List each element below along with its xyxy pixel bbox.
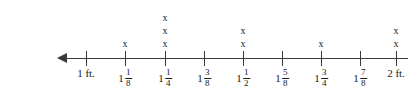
denominator: 2: [243, 79, 250, 88]
fraction-part: 78: [360, 68, 367, 89]
tick-mark: [396, 51, 397, 66]
fraction-part: 34: [321, 68, 328, 89]
x-mark: x: [241, 39, 246, 52]
tick-label-1-7-8: 178: [353, 68, 367, 89]
numerator: 1: [165, 68, 172, 77]
tick-label-1-3-4: 134: [314, 68, 328, 89]
fraction-part: 14: [165, 68, 172, 89]
mixed-number: 118: [118, 68, 132, 89]
x-stack-1-1-8: x: [123, 39, 128, 52]
fraction-part: 18: [125, 68, 132, 89]
tick-mark: [282, 51, 283, 66]
mixed-number: 112: [236, 68, 250, 89]
tick-mark: [125, 51, 126, 66]
tick-mark: [86, 51, 87, 66]
numerator: 5: [282, 68, 289, 77]
fraction-part: 38: [204, 68, 211, 89]
denominator: 8: [360, 79, 367, 88]
fraction-part: 12: [243, 68, 250, 89]
x-stack-1-3-4: x: [319, 39, 324, 52]
numerator: 1: [243, 68, 250, 77]
denominator: 8: [282, 79, 289, 88]
tick-label-1-1-8: 118: [118, 68, 132, 89]
tick-label-1-1-4: 114: [158, 68, 172, 89]
numerator: 1: [125, 68, 132, 77]
fraction-part: 58: [282, 68, 289, 89]
mixed-number: 138: [197, 68, 211, 89]
mixed-number: 178: [353, 68, 367, 89]
denominator: 4: [165, 79, 172, 88]
line-plot-figure: 1 ft.1181141381121581341782 ft. xxxxxxxx…: [0, 0, 417, 97]
number-line-axis: [60, 58, 408, 59]
mixed-number: 114: [158, 68, 172, 89]
numerator: 3: [321, 68, 328, 77]
tick-mark: [360, 51, 361, 66]
tick-label-2ft: 2 ft.: [387, 68, 405, 79]
tick-mark: [321, 51, 322, 66]
denominator: 4: [321, 79, 328, 88]
axis-left-arrow-icon: [57, 53, 67, 63]
tick-label-1ft: 1 ft.: [77, 68, 95, 79]
denominator: 8: [125, 79, 132, 88]
mixed-number: 134: [314, 68, 328, 89]
tick-mark: [243, 51, 244, 66]
x-mark: x: [319, 39, 324, 52]
tick-mark: [165, 51, 166, 66]
x-mark: x: [123, 39, 128, 52]
mixed-number: 158: [275, 68, 289, 89]
denominator: 8: [204, 79, 211, 88]
x-stack-2ft: xx: [394, 26, 399, 52]
x-stack-1-1-4: xxx: [163, 13, 168, 52]
numerator: 7: [360, 68, 367, 77]
x-mark: x: [394, 39, 399, 52]
x-stack-1-1-2: xx: [241, 26, 246, 52]
tick-label-1-3-8: 138: [197, 68, 211, 89]
tick-label-1-5-8: 158: [275, 68, 289, 89]
x-mark: x: [163, 39, 168, 52]
tick-label-1-1-2: 112: [236, 68, 250, 89]
tick-mark: [204, 51, 205, 66]
numerator: 3: [204, 68, 211, 77]
